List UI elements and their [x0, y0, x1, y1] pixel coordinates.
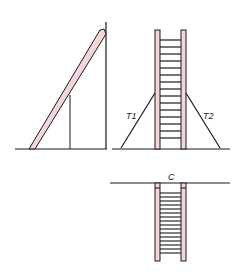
label-t2: T2 — [203, 111, 214, 121]
label-c: C — [168, 172, 175, 182]
ladder-diagram: T1 T2 C — [0, 0, 246, 275]
ladder-rungs — [160, 40, 181, 138]
leaning-ladder-panel — [15, 22, 107, 149]
ladder-right-rail — [181, 30, 186, 149]
leaning-ladder — [29, 29, 106, 149]
ladder-right-rail — [181, 183, 186, 261]
ladder-left-rail — [155, 30, 160, 149]
hanging-ladder-panel: C — [110, 172, 230, 261]
freestanding-ladder-panel: T1 T2 — [112, 30, 230, 149]
label-t1: T1 — [126, 111, 137, 121]
ladder-left-rail — [155, 183, 160, 261]
